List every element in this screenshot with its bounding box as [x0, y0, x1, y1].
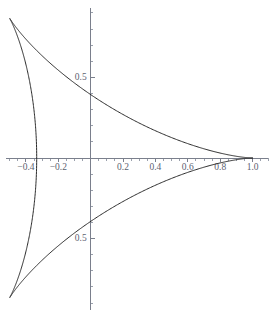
y-tick-label: 0.5 [75, 233, 87, 243]
y-tick-label: 0.5 [75, 72, 87, 82]
x-tick-label: −0.4 [17, 162, 34, 172]
plot-canvas: −0.4−0.20.20.40.60.81.0 0.50.5 [0, 0, 272, 316]
x-axis-tick-labels: −0.4−0.20.20.40.60.81.0 [17, 162, 258, 172]
deltoid-plot: −0.4−0.20.20.40.60.81.0 0.50.5 [0, 0, 272, 316]
x-tick-label: 1.0 [247, 162, 259, 172]
x-tick-label: −0.2 [50, 162, 67, 172]
y-axis-tick-labels: 0.50.5 [75, 72, 87, 243]
x-tick-label: 0.2 [117, 162, 129, 172]
x-tick-label: 0.4 [149, 162, 161, 172]
